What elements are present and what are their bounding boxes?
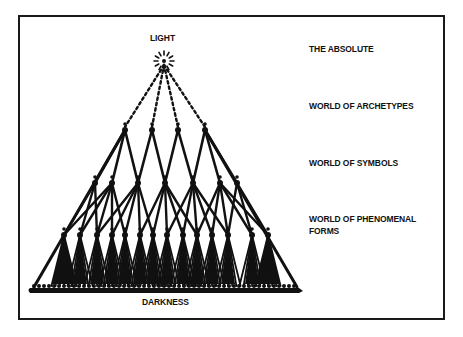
base-bead — [247, 284, 251, 288]
phenomenal-node — [225, 232, 231, 238]
base-bead — [122, 284, 126, 288]
symbol-bead — [110, 175, 114, 179]
base-bead — [282, 284, 286, 288]
base-bead — [102, 284, 106, 288]
phenomenal-node — [249, 232, 255, 238]
base-bead — [72, 284, 76, 288]
base-bead — [252, 284, 256, 288]
phenomenal-node — [150, 232, 156, 238]
base-bead — [82, 284, 86, 288]
level-label-absolute: THE ABSOLUTE — [309, 44, 374, 55]
symbol-node — [109, 180, 115, 186]
base-bead — [182, 284, 186, 288]
archetype-bead — [203, 122, 207, 126]
base-bead — [207, 284, 211, 288]
base-bead — [112, 284, 116, 288]
dotted-emanation-line — [164, 65, 205, 127]
base-bead — [267, 284, 271, 288]
base-bead — [172, 284, 176, 288]
archetype-symbol-link — [165, 130, 178, 183]
light-ray — [155, 64, 158, 66]
archetype-symbol-link — [95, 130, 125, 183]
symbol-node — [92, 180, 98, 186]
dotted-emanation-line — [125, 65, 164, 127]
archetype-symbol-link — [193, 130, 205, 183]
phenomenal-node — [77, 232, 83, 238]
base-bead — [77, 284, 81, 288]
base-bead — [242, 284, 246, 288]
symbol-phenomenal-link — [153, 183, 165, 235]
base-bead — [262, 284, 266, 288]
phenomenal-node — [61, 232, 67, 238]
base-bead — [292, 284, 296, 288]
base-bead — [237, 284, 241, 288]
symbol-bead — [235, 175, 239, 179]
base-bead — [37, 284, 41, 288]
base-bead — [57, 284, 61, 288]
base-bead — [142, 284, 146, 288]
archetype-node — [149, 127, 155, 133]
phenomenal-bead — [165, 227, 169, 231]
base-bead — [167, 284, 171, 288]
light-ray — [155, 56, 158, 58]
phenomenal-bead — [250, 227, 254, 231]
base-bead — [227, 284, 231, 288]
base-bead — [152, 284, 156, 288]
archetype-node — [175, 127, 181, 133]
base-bead — [257, 284, 261, 288]
symbol-node — [135, 180, 141, 186]
symbol-phenomenal-link — [112, 183, 138, 235]
base-bead — [157, 284, 161, 288]
base-bead — [137, 284, 141, 288]
phenomenal-node — [194, 232, 200, 238]
base-bead — [162, 284, 166, 288]
level-label-symbols: WORLD OF SYMBOLS — [309, 158, 398, 169]
darkness-base-bar — [29, 288, 304, 293]
base-bead — [197, 284, 201, 288]
symbol-phenomenal-link — [64, 183, 95, 235]
base-bead — [67, 284, 71, 288]
level-label-archetypes: WORLD OF ARCHETYPES — [309, 101, 414, 112]
base-bead — [47, 284, 51, 288]
symbol-node — [234, 180, 240, 186]
archetype-node — [202, 127, 208, 133]
base-bead — [117, 284, 121, 288]
level-label-phenomenal: WORLD OF PHENOMENAL — [309, 214, 416, 225]
phenomenal-bead — [151, 227, 155, 231]
light-ray — [169, 64, 172, 66]
archetype-bead — [123, 122, 127, 126]
light-ray — [169, 56, 172, 58]
light-ray — [167, 52, 169, 55]
phenomenal-bead — [62, 227, 66, 231]
phenomenal-node — [164, 232, 170, 238]
base-bead — [97, 284, 101, 288]
phenomenal-bead — [78, 227, 82, 231]
base-bead — [287, 284, 291, 288]
archetype-node — [122, 127, 128, 133]
symbol-node — [190, 180, 196, 186]
phenomenal-bead — [226, 227, 230, 231]
archetype-symbol-link — [178, 130, 193, 183]
phenomenal-node — [109, 232, 115, 238]
level-label-phenomenal-forms: FORMS — [309, 226, 339, 237]
symbol-phenomenal-link — [193, 183, 228, 235]
base-bead — [222, 284, 226, 288]
phenomenal-node — [265, 232, 271, 238]
base-bead — [272, 284, 276, 288]
phenomenal-node — [209, 232, 215, 238]
base-bead — [202, 284, 206, 288]
phenomenal-node — [180, 232, 186, 238]
darkness-label: DARKNESS — [142, 297, 189, 308]
symbol-phenomenal-link — [237, 183, 268, 235]
symbol-bead — [191, 175, 195, 179]
base-bead — [107, 284, 111, 288]
light-ray — [159, 52, 161, 55]
archetype-symbol-link — [205, 130, 237, 183]
phenomenal-bead — [95, 227, 99, 231]
archetype-symbol-link — [152, 130, 165, 183]
base-bead — [52, 284, 56, 288]
apex-node — [162, 59, 166, 63]
base-bead — [32, 284, 36, 288]
base-bead — [277, 284, 281, 288]
base-bead — [187, 284, 191, 288]
